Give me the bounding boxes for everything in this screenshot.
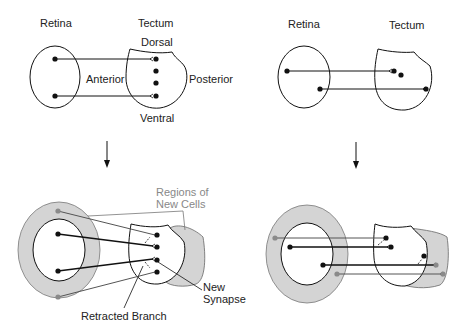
tectal-cell-dot bbox=[153, 68, 158, 73]
regions-of-new-cells-label: Regions of bbox=[156, 186, 210, 198]
tectal-cell-dot bbox=[154, 257, 159, 262]
retina-outline bbox=[281, 223, 333, 285]
tectal-cell-dot bbox=[154, 269, 159, 274]
new-retinal-cell-dot bbox=[55, 294, 60, 299]
panel-top-left: Retina Tectum Dorsal Ventral Anterior Po… bbox=[30, 17, 233, 124]
anterior-label: Anterior bbox=[86, 73, 125, 85]
synapse-terminal-icon bbox=[150, 57, 153, 61]
retinal-cell-dot bbox=[52, 56, 57, 61]
tectal-cell-dot bbox=[383, 235, 388, 240]
arrow-down-right-icon bbox=[353, 142, 359, 169]
tectal-cell-dot bbox=[388, 244, 393, 249]
panel-bottom-left: Regions of New Cells New Synapse Retract… bbox=[18, 186, 246, 322]
tectal-cell-dot bbox=[421, 253, 426, 258]
regions-pointer-line bbox=[88, 211, 183, 216]
tectum-outline bbox=[375, 49, 432, 110]
tectal-cell-dot bbox=[391, 68, 396, 73]
panel-bottom-right bbox=[266, 205, 448, 303]
new-tectal-cell-dot bbox=[440, 271, 445, 276]
retina-label: Retina bbox=[288, 18, 321, 30]
arrow-down-left-icon bbox=[104, 141, 110, 168]
tectal-cell-dot bbox=[398, 72, 403, 77]
regions-of-new-cells-label-2: New Cells bbox=[156, 198, 206, 210]
retina-outline bbox=[278, 46, 330, 108]
tectal-cell-dot bbox=[154, 232, 159, 237]
ventral-label: Ventral bbox=[140, 112, 174, 124]
tectum-label: Tectum bbox=[389, 19, 424, 31]
new-retinal-cell-dot bbox=[55, 208, 60, 213]
retina-label: Retina bbox=[40, 17, 73, 29]
retina-outline bbox=[30, 46, 80, 108]
new-retinal-cell-dot bbox=[272, 235, 277, 240]
panel-top-right: Retina Tectum bbox=[278, 18, 432, 110]
retracted-branch-label: Retracted Branch bbox=[81, 310, 167, 322]
tectal-cell-dot bbox=[153, 80, 158, 85]
diagram-canvas: Retina Tectum Dorsal Ventral Anterior Po… bbox=[0, 0, 470, 336]
retinal-cell-dot bbox=[55, 231, 60, 236]
retinal-cell-dot bbox=[52, 93, 57, 98]
new-retinal-cell-dot bbox=[334, 271, 339, 276]
new-synapse-label-2: Synapse bbox=[203, 293, 246, 305]
synapse-terminal-icon bbox=[150, 94, 153, 98]
tectal-cell-dot bbox=[153, 93, 158, 98]
posterior-label: Posterior bbox=[189, 73, 233, 85]
tectal-cell-dot bbox=[154, 244, 159, 249]
new-tectal-cell-dot bbox=[433, 262, 438, 267]
new-synapse-label: New bbox=[203, 281, 225, 293]
retinal-cell-dot bbox=[284, 68, 289, 73]
tectum-label: Tectum bbox=[138, 17, 173, 29]
dorsal-label: Dorsal bbox=[141, 36, 173, 48]
tectal-cell-dot bbox=[153, 56, 158, 61]
retinal-cell-dot bbox=[317, 86, 322, 91]
tectal-cell-dot bbox=[423, 86, 428, 91]
retinal-cell-dot bbox=[287, 244, 292, 249]
retinal-cell-dot bbox=[55, 268, 60, 273]
retinal-cell-dot bbox=[320, 262, 325, 267]
